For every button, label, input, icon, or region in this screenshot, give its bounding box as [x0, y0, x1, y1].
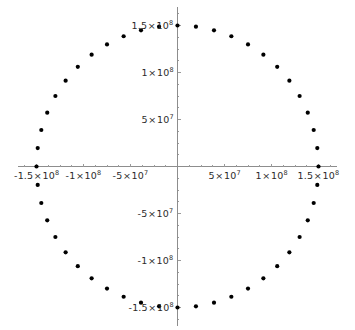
y-tick-label: 1.5×108: [132, 21, 174, 31]
data-point: [194, 304, 198, 308]
data-point: [287, 250, 291, 254]
data-point: [275, 65, 279, 69]
data-point: [306, 218, 310, 222]
x-tick-label: -1.5×108: [14, 171, 59, 181]
data-point: [312, 128, 316, 132]
data-point: [122, 295, 126, 299]
data-point: [246, 42, 250, 46]
y-tick-label: -5×107: [138, 209, 174, 219]
data-point: [76, 264, 80, 268]
data-point: [105, 42, 109, 46]
x-tick-label: -5×107: [113, 171, 149, 181]
y-tick-label: 1×108: [142, 68, 174, 78]
data-point: [212, 28, 216, 32]
data-point: [105, 287, 109, 291]
data-point: [229, 295, 233, 299]
data-point: [229, 34, 233, 38]
data-point: [194, 25, 198, 29]
data-point: [53, 94, 57, 98]
x-tick-label: -1×108: [66, 171, 102, 181]
data-point: [36, 146, 40, 150]
data-point: [315, 183, 319, 187]
data-point: [90, 276, 94, 280]
data-point: [175, 305, 179, 309]
y-tick-label: -1.5×108: [129, 303, 174, 313]
x-tick-label: 1.5×108: [298, 171, 340, 181]
data-point: [45, 218, 49, 222]
scatter-plot-figure: -1.5×108-1×108-5×1075×1071×1081.5×108 1.…: [0, 0, 355, 330]
data-point: [36, 183, 40, 187]
data-point: [275, 264, 279, 268]
data-point: [315, 146, 319, 150]
data-point: [45, 111, 49, 115]
data-point: [53, 235, 57, 239]
data-point: [175, 23, 179, 27]
data-point: [316, 164, 320, 168]
x-tick-label: 1×108: [256, 171, 288, 181]
y-tick-label: -1×108: [138, 256, 174, 266]
data-point: [306, 111, 310, 115]
data-point: [246, 287, 250, 291]
data-point: [64, 250, 68, 254]
data-point: [39, 201, 43, 205]
data-point: [34, 164, 38, 168]
data-point: [76, 65, 80, 69]
x-tick-label: 5×107: [209, 171, 241, 181]
data-point: [287, 79, 291, 83]
data-point: [261, 53, 265, 57]
axes-group: [18, 7, 338, 327]
data-point: [298, 94, 302, 98]
data-point: [90, 53, 94, 57]
data-point: [64, 79, 68, 83]
data-point: [39, 128, 43, 132]
data-point: [312, 201, 316, 205]
plot-canvas: [0, 0, 355, 330]
data-point: [122, 34, 126, 38]
data-point: [298, 235, 302, 239]
y-tick-label: 5×107: [142, 115, 174, 125]
data-point: [212, 301, 216, 305]
data-point: [261, 276, 265, 280]
